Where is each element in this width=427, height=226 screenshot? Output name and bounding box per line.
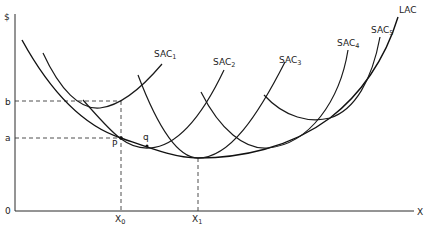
guide-lines [15, 101, 198, 211]
y-tick-b-label: b [5, 97, 11, 107]
lac-label: LAC [399, 5, 417, 15]
y-axis-label: $ [4, 12, 10, 22]
origin-label: 0 [5, 206, 11, 216]
sac5-label: SAC5 [371, 25, 393, 37]
sac2-label: SAC2 [213, 57, 235, 69]
point-p-label: P [112, 139, 118, 149]
x-tick-x1-label: X1 [192, 214, 202, 226]
x-axis-label: X [417, 207, 423, 217]
sac1-curve [43, 53, 162, 108]
sac4-label: SAC4 [337, 38, 359, 50]
sac1-label: SAC1 [154, 49, 176, 61]
y-tick-a-label: a [5, 133, 11, 143]
point-q-label: q [143, 132, 149, 142]
point-q-marker [146, 145, 149, 148]
sac5-curve [264, 37, 380, 120]
lac-sac-cost-diagram: $ X 0 b a X0 X1 LAC SAC1 SAC2 SAC3 SAC4 … [0, 0, 427, 226]
sac3-label: SAC3 [279, 55, 301, 67]
point-p-marker [119, 136, 123, 140]
sac2-curve [83, 70, 224, 148]
x-tick-x0-label: X0 [115, 214, 125, 226]
